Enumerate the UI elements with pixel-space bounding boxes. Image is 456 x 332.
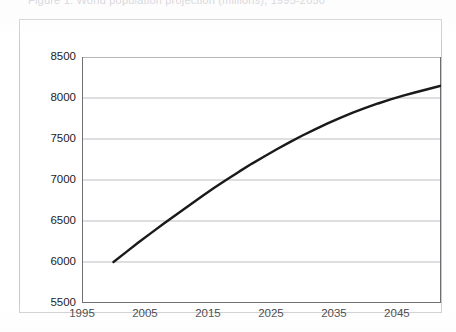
line-chart-svg bbox=[82, 57, 441, 303]
x-axis-labels: 199520052015202520352045 bbox=[82, 308, 441, 324]
chart-frame: 8500800075007000650060005500 19952005201… bbox=[19, 19, 442, 313]
y-tick-label-6000: 6000 bbox=[32, 256, 76, 268]
plot-area bbox=[82, 57, 441, 303]
x-tick-label-2035: 2035 bbox=[304, 308, 364, 320]
y-axis-labels: 8500800075007000650060005500 bbox=[30, 57, 76, 303]
data-series-population bbox=[113, 86, 441, 262]
y-tick-label-7000: 7000 bbox=[32, 174, 76, 186]
y-tick-label-7500: 7500 bbox=[32, 133, 76, 145]
y-tick-label-8000: 8000 bbox=[32, 92, 76, 104]
y-tick-label-6500: 6500 bbox=[32, 215, 76, 227]
x-tick-label-2005: 2005 bbox=[115, 308, 175, 320]
x-tick-label-1995: 1995 bbox=[52, 308, 112, 320]
x-tick-label-2015: 2015 bbox=[178, 308, 238, 320]
y-tick-label-8500: 8500 bbox=[32, 51, 76, 63]
x-tick-label-2045: 2045 bbox=[367, 308, 427, 320]
chart-title-text: Figure 1. World population projection (m… bbox=[28, 0, 325, 6]
x-tick-label-2025: 2025 bbox=[241, 308, 301, 320]
chart-title-cropped: Figure 1. World population projection (m… bbox=[0, 0, 456, 7]
